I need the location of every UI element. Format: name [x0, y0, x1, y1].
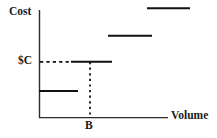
step-cost-chart: Cost Volume $C B	[0, 0, 217, 138]
x-axis-title: Volume	[171, 110, 208, 122]
y-axis-tick-label-cost-c: $C	[18, 55, 32, 67]
x-axis-tick-label-volume-b: B	[85, 120, 93, 132]
y-axis-title: Cost	[9, 6, 31, 18]
